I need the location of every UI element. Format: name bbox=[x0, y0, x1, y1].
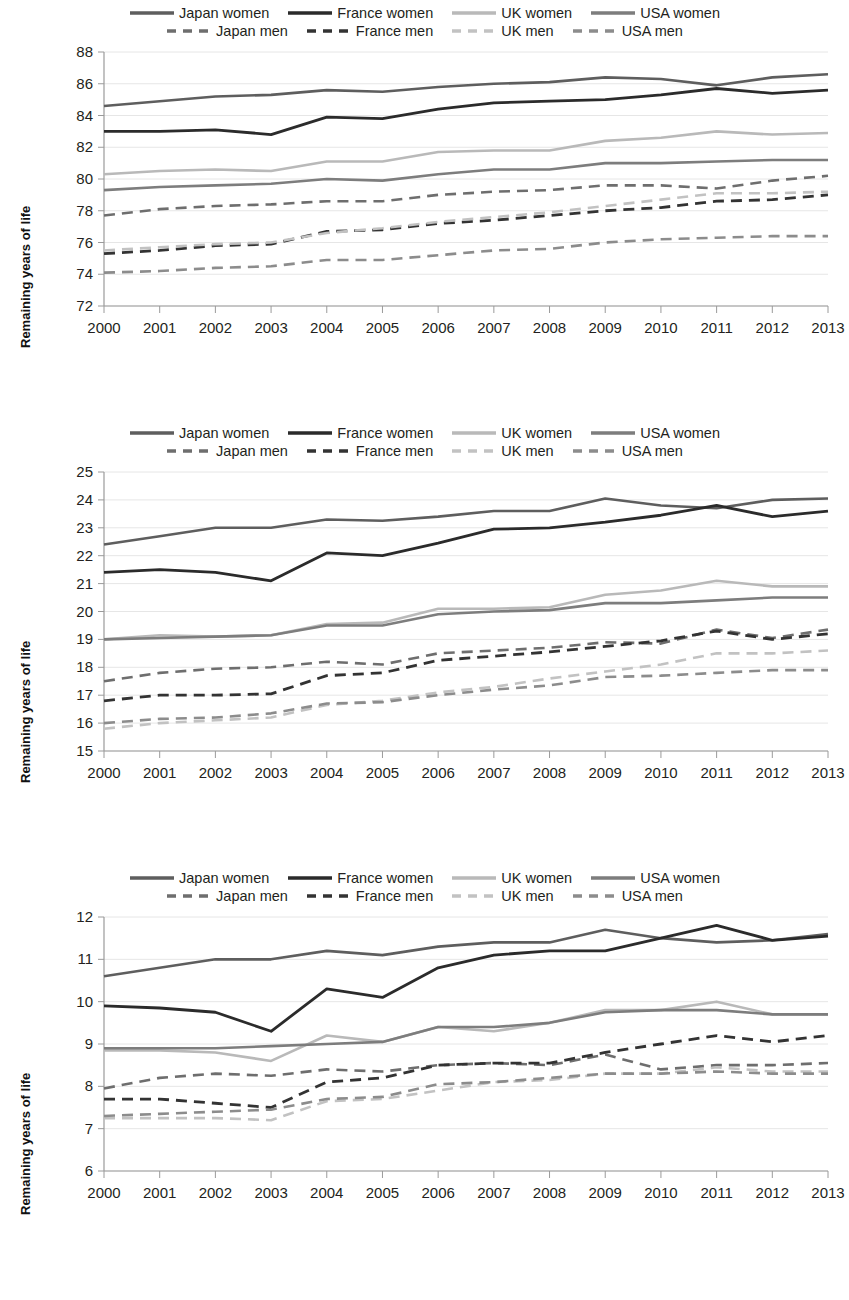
chart-panel-2: Japan womenFrance womenUK womenUSA women… bbox=[0, 420, 849, 865]
solid-line-swatch-icon bbox=[129, 426, 175, 440]
x-axis-tick-label: 2001 bbox=[143, 764, 176, 781]
legend-row-men: Japan menFrance menUK menUSA men bbox=[157, 24, 692, 38]
y-axis-tick-label: 86 bbox=[76, 75, 93, 92]
x-axis-tick-label: 2009 bbox=[589, 1184, 622, 1201]
series-line-france_women[interactable] bbox=[104, 505, 828, 580]
legend-item-japan-women[interactable]: Japan women bbox=[129, 426, 269, 440]
x-axis-tick-label: 2004 bbox=[310, 764, 343, 781]
y-axis-tick-label: 7 bbox=[85, 1120, 93, 1137]
legend-item-france-men[interactable]: France men bbox=[306, 444, 433, 458]
x-axis-tick-label: 2004 bbox=[310, 319, 343, 336]
series-line-japan_women[interactable] bbox=[104, 930, 828, 977]
x-axis-tick-label: 2011 bbox=[700, 1184, 732, 1201]
solid-line-swatch-icon bbox=[590, 871, 636, 885]
y-axis-tick-label: 80 bbox=[76, 170, 93, 187]
legend-3: Japan womenFrance womenUK womenUSA women… bbox=[0, 865, 849, 903]
series-line-usa_women[interactable] bbox=[104, 598, 828, 640]
x-axis-tick-label: 2013 bbox=[811, 319, 844, 336]
legend-row-women: Japan womenFrance womenUK womenUSA women bbox=[120, 871, 729, 885]
chart-area-3: Remaining years of life 6789101112200020… bbox=[0, 903, 849, 1223]
legend-item-usa-women[interactable]: USA women bbox=[590, 6, 720, 20]
solid-line-swatch-icon bbox=[590, 426, 636, 440]
solid-line-swatch-icon bbox=[129, 6, 175, 20]
x-axis-tick-label: 2007 bbox=[477, 1184, 510, 1201]
x-axis-tick-label: 2012 bbox=[756, 1184, 789, 1201]
x-axis-tick-label: 2000 bbox=[87, 1184, 120, 1201]
legend-item-france-women[interactable]: France women bbox=[287, 6, 433, 20]
y-axis-tick-label: 24 bbox=[76, 491, 93, 508]
legend-label: France women bbox=[337, 6, 433, 20]
y-axis-tick-label: 84 bbox=[76, 107, 93, 124]
legend-label: Japan men bbox=[216, 889, 288, 903]
legend-item-france-men[interactable]: France men bbox=[306, 889, 433, 903]
legend-item-uk-women[interactable]: UK women bbox=[451, 6, 572, 20]
dashed-line-swatch-icon bbox=[572, 24, 618, 38]
y-axis-tick-label: 16 bbox=[76, 714, 93, 731]
legend-item-japan-women[interactable]: Japan women bbox=[129, 871, 269, 885]
legend-item-japan-women[interactable]: Japan women bbox=[129, 6, 269, 20]
y-axis-tick-label: 88 bbox=[76, 43, 93, 60]
y-axis-tick-label: 22 bbox=[76, 547, 93, 564]
figure-page: Japan womenFrance womenUK womenUSA women… bbox=[0, 0, 849, 1300]
legend-item-usa-women[interactable]: USA women bbox=[590, 871, 720, 885]
y-axis-tick-label: 10 bbox=[76, 993, 93, 1010]
y-axis-title-2: Remaining years of life bbox=[18, 641, 33, 783]
series-line-usa_women[interactable] bbox=[104, 160, 828, 190]
solid-line-swatch-icon bbox=[451, 871, 497, 885]
y-axis-tick-label: 8 bbox=[85, 1077, 93, 1094]
legend-item-usa-men[interactable]: USA men bbox=[572, 444, 683, 458]
x-axis-tick-label: 2000 bbox=[87, 319, 120, 336]
legend-item-usa-women[interactable]: USA women bbox=[590, 426, 720, 440]
x-axis-tick-label: 2011 bbox=[700, 319, 732, 336]
solid-line-swatch-icon bbox=[287, 871, 333, 885]
y-axis-tick-label: 72 bbox=[76, 297, 93, 314]
solid-line-swatch-icon bbox=[590, 6, 636, 20]
legend-item-france-men[interactable]: France men bbox=[306, 24, 433, 38]
legend-item-uk-men[interactable]: UK men bbox=[451, 24, 553, 38]
series-line-uk_women[interactable] bbox=[104, 131, 828, 174]
x-axis-tick-label: 2000 bbox=[87, 764, 120, 781]
legend-item-uk-women[interactable]: UK women bbox=[451, 871, 572, 885]
legend-item-uk-men[interactable]: UK men bbox=[451, 889, 553, 903]
legend-row-men: Japan menFrance menUK menUSA men bbox=[157, 889, 692, 903]
legend-item-uk-men[interactable]: UK men bbox=[451, 444, 553, 458]
legend-item-japan-men[interactable]: Japan men bbox=[166, 444, 288, 458]
series-line-usa_men[interactable] bbox=[104, 236, 828, 273]
y-axis-tick-label: 78 bbox=[76, 202, 93, 219]
legend-item-usa-men[interactable]: USA men bbox=[572, 24, 683, 38]
legend-item-france-women[interactable]: France women bbox=[287, 426, 433, 440]
x-axis-tick-label: 2010 bbox=[644, 764, 677, 781]
y-axis-tick-label: 19 bbox=[76, 630, 93, 647]
x-axis-tick-label: 2009 bbox=[589, 764, 622, 781]
x-axis-tick-label: 2005 bbox=[366, 1184, 399, 1201]
x-axis-tick-label: 2013 bbox=[811, 1184, 844, 1201]
x-axis-tick-label: 2001 bbox=[143, 1184, 176, 1201]
y-axis-tick-label: 23 bbox=[76, 519, 93, 536]
legend-label: USA men bbox=[622, 24, 683, 38]
dashed-line-swatch-icon bbox=[306, 444, 352, 458]
legend-label: UK men bbox=[501, 889, 553, 903]
legend-label: UK men bbox=[501, 444, 553, 458]
legend-item-uk-women[interactable]: UK women bbox=[451, 426, 572, 440]
dashed-line-swatch-icon bbox=[306, 889, 352, 903]
y-axis-tick-label: 20 bbox=[76, 603, 93, 620]
legend-item-japan-men[interactable]: Japan men bbox=[166, 889, 288, 903]
x-axis-tick-label: 2008 bbox=[533, 764, 566, 781]
y-axis-tick-label: 12 bbox=[76, 908, 93, 925]
x-axis-tick-label: 2006 bbox=[421, 319, 454, 336]
legend-label: USA men bbox=[622, 444, 683, 458]
legend-label: Japan women bbox=[179, 871, 269, 885]
legend-item-usa-men[interactable]: USA men bbox=[572, 889, 683, 903]
series-line-usa_men[interactable] bbox=[104, 1072, 828, 1116]
x-axis-tick-label: 2012 bbox=[756, 764, 789, 781]
dashed-line-swatch-icon bbox=[306, 24, 352, 38]
legend-item-france-women[interactable]: France women bbox=[287, 871, 433, 885]
line-chart-1: 7274767880828486882000200120022003200420… bbox=[0, 38, 849, 358]
legend-2: Japan womenFrance womenUK womenUSA women… bbox=[0, 420, 849, 458]
legend-label: France women bbox=[337, 871, 433, 885]
legend-item-japan-men[interactable]: Japan men bbox=[166, 24, 288, 38]
series-line-japan_men[interactable] bbox=[104, 176, 828, 216]
solid-line-swatch-icon bbox=[451, 6, 497, 20]
legend-label: Japan women bbox=[179, 426, 269, 440]
x-axis-tick-label: 2008 bbox=[533, 1184, 566, 1201]
